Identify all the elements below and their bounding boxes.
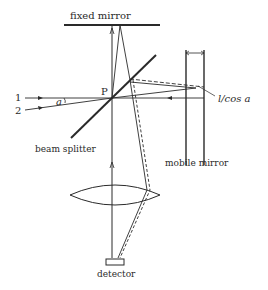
down-beam-dashed <box>120 80 150 258</box>
fixed-mirror-label: fixed mirror <box>70 10 131 21</box>
down-beam-solid <box>118 80 147 258</box>
beam-1-label: 1 <box>15 92 21 103</box>
interferometer-diagram: fixed mirror beam splitter 1 2 a P mobil… <box>0 0 268 290</box>
angle-label: a <box>56 96 62 107</box>
path-length-leader <box>198 86 215 96</box>
tilted-beam-down <box>120 25 130 80</box>
beam-2-label: 2 <box>15 105 21 116</box>
tilted-beam-up <box>112 25 120 98</box>
detector-label: detector <box>97 269 136 279</box>
detector <box>106 259 124 265</box>
mobile-mirror-label: mobile mirror <box>165 158 229 168</box>
point-p-label: P <box>101 86 108 97</box>
path-length-label: l/cos a <box>218 93 250 104</box>
beam-to-mobile-mirror <box>112 88 196 98</box>
beam-splitter <box>71 55 156 138</box>
beam-splitter-label: beam splitter <box>35 144 97 154</box>
